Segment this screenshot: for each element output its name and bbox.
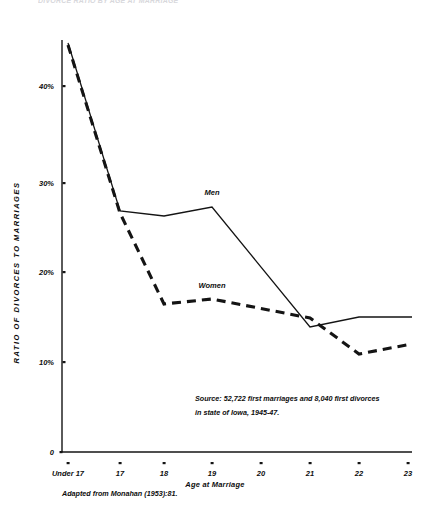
x-tick-22: 22 <box>355 469 363 478</box>
source-note: Source: 52,722 first marriages and 8,040… <box>195 392 380 420</box>
source-note-line-2: in state of Iowa, 1945-47. <box>195 406 380 420</box>
x-axis-title: Age at Marriage <box>0 480 430 489</box>
chart-figure: DIVORCE RATIO BY AGE AT MARRIAGE RATIO O… <box>0 0 430 516</box>
series-label-women: Women <box>199 281 226 290</box>
x-tick-23: 23 <box>404 469 412 478</box>
series-line-women <box>68 45 412 354</box>
x-tick-20: 20 <box>257 469 265 478</box>
x-tick-marks <box>67 462 410 464</box>
series-label-men: Men <box>205 188 220 197</box>
x-tick-17: 17 <box>116 469 124 478</box>
x-tick-18: 18 <box>160 469 168 478</box>
source-note-line-1: Source: 52,722 first marriages and 8,040… <box>195 392 380 406</box>
x-tick-21: 21 <box>306 469 314 478</box>
x-tick-under-17: Under 17 <box>52 469 84 478</box>
adapted-from-note: Adapted from Monahan (1953):81. <box>62 489 177 498</box>
chart-plot-area <box>0 0 430 516</box>
x-tick-19: 19 <box>208 469 216 478</box>
series-line-men <box>68 43 412 327</box>
